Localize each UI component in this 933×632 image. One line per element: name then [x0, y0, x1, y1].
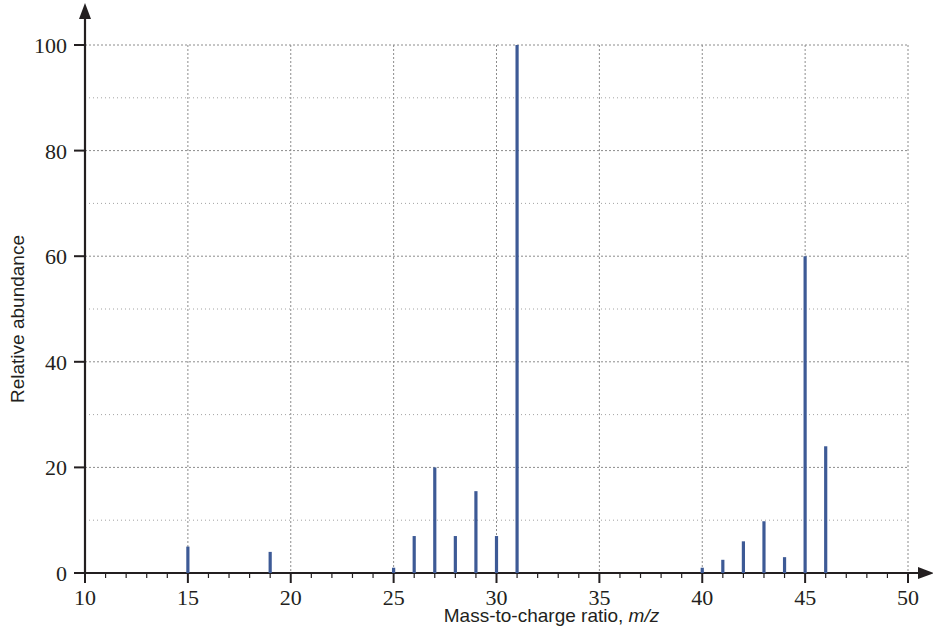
x-axis-title: Mass-to-charge ratio, m/z — [444, 605, 660, 626]
y-tick-label: 80 — [45, 139, 67, 164]
peaks-layer — [188, 45, 826, 573]
x-tick-label: 45 — [794, 585, 816, 610]
y-axis-arrowhead — [79, 3, 91, 19]
y-tick-label: 20 — [45, 455, 67, 480]
x-tick-label: 20 — [280, 585, 302, 610]
y-tick-label: 40 — [45, 350, 67, 375]
x-axis-arrowhead — [918, 567, 933, 579]
y-axis-title: Relative abundance — [7, 235, 28, 403]
x-tick-label: 40 — [691, 585, 713, 610]
grid-layer — [85, 45, 908, 573]
x-tick-label: 15 — [177, 585, 199, 610]
ticks-layer — [74, 45, 908, 583]
x-tick-label: 25 — [383, 585, 405, 610]
mass-spectrum-chart: 101520253035404550020406080100Mass-to-ch… — [0, 0, 933, 632]
chart-canvas: 101520253035404550020406080100Mass-to-ch… — [0, 0, 933, 632]
y-tick-label: 60 — [45, 244, 67, 269]
y-tick-label: 100 — [34, 33, 67, 58]
x-tick-label: 10 — [74, 585, 96, 610]
x-tick-label: 50 — [897, 585, 919, 610]
y-tick-label: 0 — [56, 561, 67, 586]
